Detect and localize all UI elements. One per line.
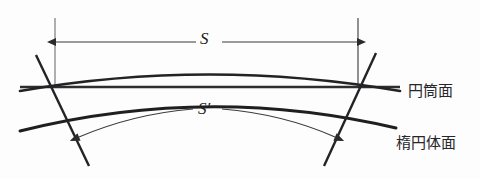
arc-distance-label: S′ <box>198 99 210 119</box>
figure-canvas: S S′ 円筒面 楕円体面 <box>0 0 480 179</box>
ellipsoid-surface-label: 楕円体面 <box>396 131 456 152</box>
cylinder-surface-label: 円筒面 <box>408 79 453 100</box>
right-normal-line <box>324 53 376 166</box>
cylinder-section-curve <box>20 75 400 92</box>
chord-distance-label: S <box>200 29 209 49</box>
left-normal-line <box>36 55 89 166</box>
s-prime-arc-left-segment <box>79 109 193 137</box>
